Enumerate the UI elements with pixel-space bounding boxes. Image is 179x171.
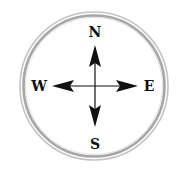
- north-label: N: [89, 24, 102, 40]
- west-label: W: [30, 78, 47, 94]
- east-label: E: [144, 78, 155, 94]
- south-label: S: [90, 136, 100, 152]
- compass-rose: N S W E: [0, 0, 179, 171]
